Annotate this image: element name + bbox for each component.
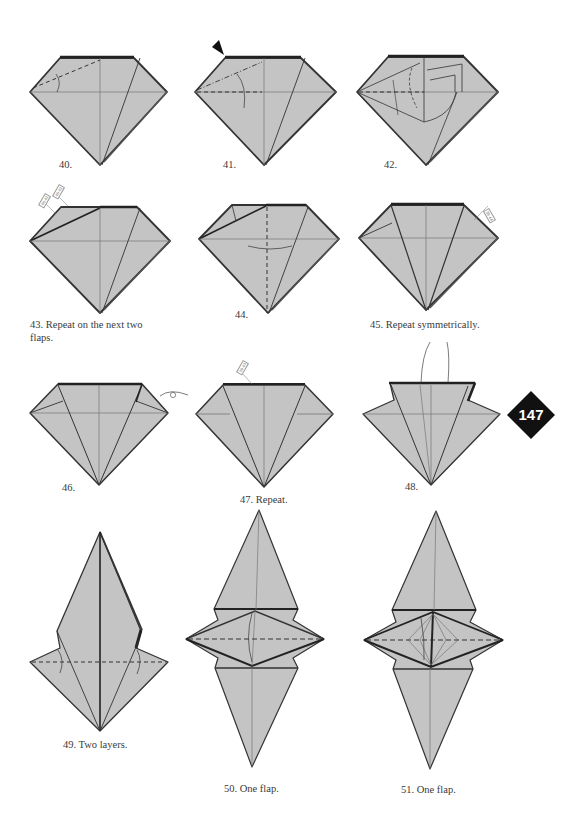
step-caption: 51. One flap. <box>401 783 456 796</box>
kite-diagram <box>0 0 569 830</box>
